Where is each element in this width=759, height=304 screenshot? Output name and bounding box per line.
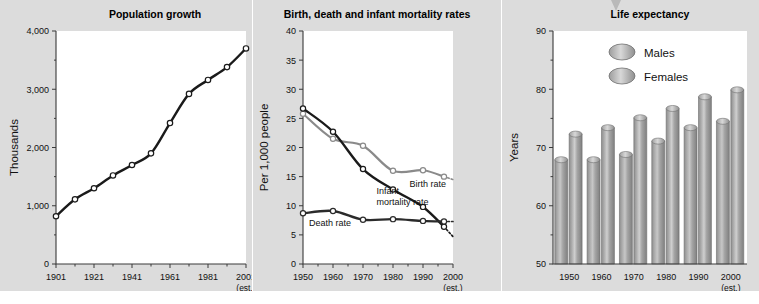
data-point-marker — [110, 173, 115, 178]
y-tick-label: 15 — [286, 172, 296, 182]
series-annotation-birth-rate: Birth rate — [410, 179, 447, 189]
bar-females-1980 — [666, 105, 679, 264]
x-tick-label: 2000 — [443, 272, 463, 282]
y-tick-label: 3,000 — [26, 85, 49, 95]
bar-males-2000 — [716, 118, 729, 264]
bar-females-1990 — [699, 94, 712, 264]
bar-females-1950 — [569, 131, 582, 264]
life-expectancy-chart: Life expectancy5060708090195019601970198… — [502, 0, 759, 291]
data-point-marker — [224, 64, 229, 69]
y-tick-label: 30 — [286, 85, 296, 95]
x-tick-label: 2001 — [236, 272, 252, 282]
data-point-marker — [167, 120, 172, 125]
y-tick-label: 60 — [536, 201, 546, 211]
y-tick-label: 25 — [286, 114, 296, 124]
data-point-marker — [148, 151, 153, 156]
data-point-marker — [420, 218, 425, 223]
bar-males-1970 — [619, 151, 632, 264]
down-arrow-marker — [608, 0, 624, 13]
data-point-marker — [330, 136, 335, 141]
y-tick-label: 40 — [286, 26, 296, 36]
bar-males-1950 — [555, 157, 568, 264]
legend-swatch-icon — [609, 68, 635, 84]
data-point-marker — [300, 106, 305, 111]
chart-panel-life-expectancy: Life expectancy5060708090195019601970198… — [502, 0, 759, 291]
legend-item-females: Females — [609, 68, 688, 84]
x-tick-label: 1901 — [46, 272, 66, 282]
data-point-marker — [186, 91, 191, 96]
birth-death-infant-mortality-chart: Birth, death and infant mortality rates0… — [253, 0, 501, 291]
series-annotation-death-rate: Death rate — [309, 218, 351, 228]
data-point-marker — [360, 143, 365, 148]
y-tick-label: 50 — [536, 259, 546, 269]
data-point-marker — [91, 186, 96, 191]
x-tick-label: 1921 — [84, 272, 104, 282]
legend-label: Males — [644, 47, 675, 59]
y-axis-label: Years — [508, 133, 520, 162]
bar-females-1970 — [634, 115, 647, 264]
x-tick-label: 1941 — [122, 272, 142, 282]
y-tick-label: 20 — [286, 143, 296, 153]
data-point-marker — [300, 111, 305, 116]
x-axis-note: (est.) — [443, 283, 463, 291]
x-tick-label: 1980 — [383, 272, 403, 282]
y-tick-label: 0 — [44, 259, 49, 269]
data-point-marker — [330, 129, 335, 134]
x-axis-note: (est.) — [236, 283, 252, 291]
data-point-marker — [420, 168, 425, 173]
bar-females-2000 — [731, 87, 744, 264]
legend-label: Females — [644, 71, 688, 83]
x-tick-label: 1960 — [591, 272, 611, 282]
data-point-marker — [390, 217, 395, 222]
x-tick-label: 1961 — [160, 272, 180, 282]
y-tick-label: 70 — [536, 143, 546, 153]
y-tick-label: 0 — [291, 259, 296, 269]
chart-title: Birth, death and infant mortality rates — [284, 8, 471, 20]
chart-panel-rates: Birth, death and infant mortality rates0… — [253, 0, 501, 291]
y-tick-label: 5 — [291, 230, 296, 240]
chart-title: Population growth — [109, 8, 201, 20]
x-tick-label: 1970 — [624, 272, 644, 282]
y-axis-label: Thousands — [8, 119, 20, 176]
plot-area — [56, 31, 246, 264]
data-point-marker — [330, 208, 335, 213]
data-point-marker — [441, 219, 446, 224]
y-tick-label: 35 — [286, 56, 296, 66]
data-point-marker — [300, 211, 305, 216]
data-point-marker — [72, 197, 77, 202]
x-tick-label: 1981 — [198, 272, 218, 282]
plot-area — [303, 31, 453, 264]
x-tick-label: 2000 — [721, 272, 741, 282]
data-point-marker — [360, 217, 365, 222]
population-growth-chart: Population growth01,0002,0003,0004,00019… — [0, 0, 252, 291]
y-tick-label: 90 — [536, 26, 546, 36]
y-tick-label: 10 — [286, 201, 296, 211]
figure-root: Population growth01,0002,0003,0004,00019… — [0, 0, 759, 304]
x-tick-label: 1950 — [559, 272, 579, 282]
bar-males-1980 — [652, 138, 665, 264]
x-tick-label: 1990 — [688, 272, 708, 282]
data-point-marker — [129, 162, 134, 167]
bar-females-1960 — [602, 125, 615, 264]
x-axis-note: (est.) — [721, 283, 741, 291]
x-tick-label: 1970 — [353, 272, 373, 282]
x-tick-label: 1960 — [323, 272, 343, 282]
data-point-marker — [243, 46, 248, 51]
y-tick-label: 4,000 — [26, 26, 49, 36]
x-tick-label: 1980 — [656, 272, 676, 282]
y-tick-label: 2,000 — [26, 143, 49, 153]
y-tick-label: 80 — [536, 85, 546, 95]
series-annotation-infant-mortality-rate: mortality rate — [377, 197, 429, 207]
data-point-marker — [360, 166, 365, 171]
data-point-marker — [53, 214, 58, 219]
data-point-marker — [205, 77, 210, 82]
chart-panel-population-growth: Population growth01,0002,0003,0004,00019… — [0, 0, 252, 291]
legend-swatch-icon — [609, 44, 635, 60]
data-point-marker — [441, 224, 446, 229]
x-tick-label: 1990 — [413, 272, 433, 282]
data-point-marker — [390, 168, 395, 173]
series-annotation-infant-mortality-rate: Infant — [377, 186, 400, 196]
y-axis-label: Per 1,000 people — [258, 104, 270, 192]
bar-males-1960 — [587, 157, 600, 264]
bar-males-1990 — [684, 125, 697, 264]
